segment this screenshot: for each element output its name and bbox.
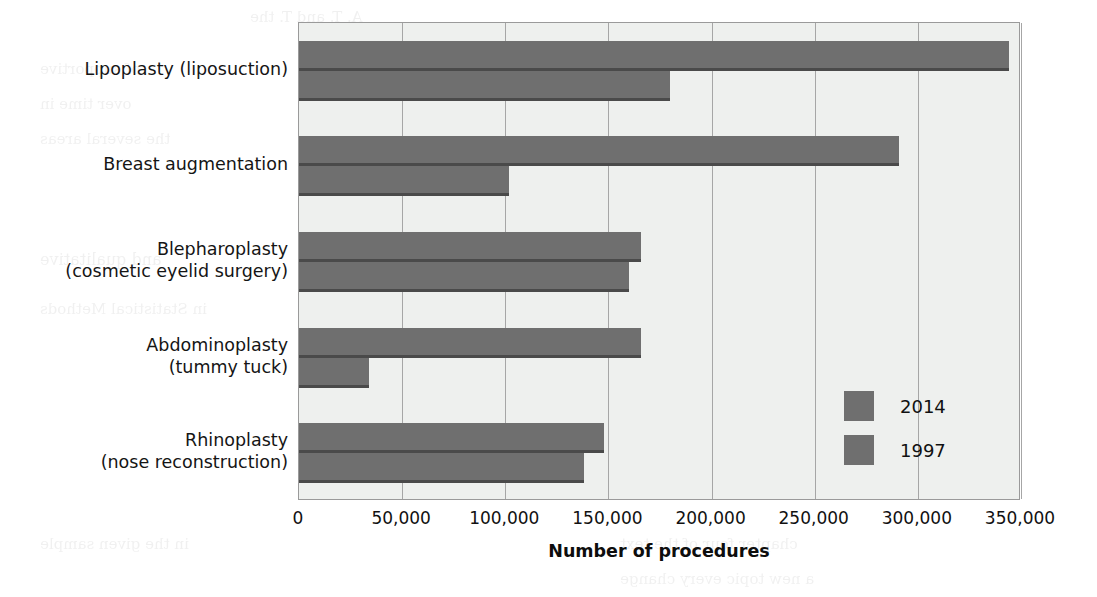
category-label-2: Blepharoplasty(cosmetic eyelid surgery) [0, 238, 300, 282]
x-tick-label-2: 100,000 [469, 508, 539, 528]
legend-item-2014: 2014 [844, 384, 964, 428]
category-label-line: Rhinoplasty [0, 429, 288, 451]
plot-area: 2014 1997 [298, 22, 1020, 500]
bar-1997-3 [299, 358, 369, 388]
bar-chart-figure: Lipoplasty (liposuction)Breast augmentat… [0, 0, 1097, 597]
bar-2014-4 [299, 423, 604, 453]
x-tick-label-1: 50,000 [371, 508, 430, 528]
x-tick-label-5: 250,000 [779, 508, 849, 528]
category-label-0: Lipoplasty (liposuction) [0, 58, 300, 80]
bar-2014-3 [299, 328, 641, 358]
legend-swatch-2014 [844, 391, 874, 421]
legend-swatch-1997 [844, 435, 874, 465]
bar-1997-2 [299, 262, 629, 292]
category-label-1: Breast augmentation [0, 153, 300, 175]
category-label-3: Abdominoplasty(tummy tuck) [0, 334, 300, 378]
legend-label-1997: 1997 [900, 440, 946, 461]
x-axis-title: Number of procedures [298, 541, 1020, 561]
x-tick-label-0: 0 [293, 508, 304, 528]
bar-2014-2 [299, 232, 641, 262]
x-tick-label-4: 200,000 [675, 508, 745, 528]
category-label-line: (nose reconstruction) [0, 451, 288, 473]
bar-1997-1 [299, 166, 509, 196]
legend-label-2014: 2014 [900, 396, 946, 417]
category-label-line: (tummy tuck) [0, 356, 288, 378]
bar-1997-0 [299, 71, 670, 101]
legend: 2014 1997 [844, 384, 964, 472]
bar-1997-4 [299, 453, 584, 483]
gridline [712, 23, 713, 499]
category-label-line: Lipoplasty (liposuction) [0, 58, 288, 80]
x-tick-label-7: 350,000 [985, 508, 1055, 528]
bar-2014-0 [299, 41, 1009, 71]
legend-item-1997: 1997 [844, 428, 964, 472]
category-label-4: Rhinoplasty(nose reconstruction) [0, 429, 300, 473]
category-label-line: Breast augmentation [0, 153, 288, 175]
category-label-line: Blepharoplasty [0, 238, 288, 260]
category-label-line: Abdominoplasty [0, 334, 288, 356]
gridline [815, 23, 816, 499]
bar-2014-1 [299, 136, 899, 166]
category-label-line: (cosmetic eyelid surgery) [0, 260, 288, 282]
x-tick-label-3: 150,000 [572, 508, 642, 528]
x-tick-label-6: 300,000 [882, 508, 952, 528]
gridline [1021, 23, 1022, 499]
